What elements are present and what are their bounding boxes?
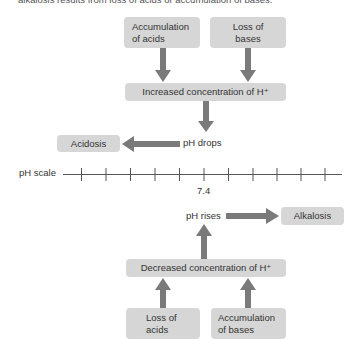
arrow-up-icon (155, 278, 171, 308)
arrow-right-icon (226, 208, 279, 224)
arrows (122, 48, 279, 308)
ph-scale-axis (63, 168, 342, 181)
diagram-graphics (0, 0, 362, 361)
arrow-down-icon (198, 101, 214, 132)
arrow-down-icon (240, 48, 256, 82)
arrow-up-icon (196, 224, 212, 259)
arrow-left-icon (122, 136, 180, 152)
arrow-up-icon (240, 278, 256, 308)
arrow-down-icon (155, 48, 171, 82)
